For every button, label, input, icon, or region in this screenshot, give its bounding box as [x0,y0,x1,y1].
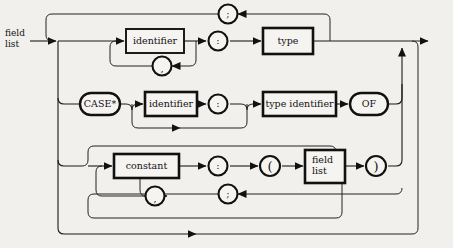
node-colon-2-shape [209,95,228,114]
node-of-keyword-shape [350,93,388,115]
node-field-list-box-shape [305,150,345,183]
left-main-rail [58,41,196,234]
node-colon-3-shape [209,157,228,176]
node-type-identifier-shape [263,92,336,116]
node-semicolon-bottom-shape [219,185,238,204]
node-comma-1-shape [153,57,172,76]
syntax-diagram-canvas: field list identifier , ; : type CASE* i… [0,0,453,248]
node-colon-1-shape [209,32,228,51]
node-constant-shape [114,154,179,178]
railroad-svg [0,0,453,248]
node-rparen-shape [366,156,386,176]
right-rail-and-exit [196,41,428,234]
node-case-keyword-shape [80,93,120,115]
node-identifier-1-shape [126,29,184,53]
node-lparen-shape [260,156,280,176]
node-comma-2-shape [146,187,165,206]
node-semicolon-top-shape [219,5,238,24]
node-identifier-2-shape [145,92,197,116]
node-type-shape [263,28,313,54]
